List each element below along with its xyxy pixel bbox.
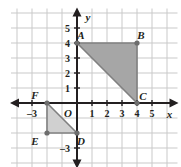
x-axis-tick-label: 2 (105, 108, 110, 119)
coordinate-plane-svg: –31234554321–3OxyABCFED (0, 0, 181, 167)
coordinate-plane-figure: –31234554321–3OxyABCFED (0, 0, 181, 167)
vertex-label-a: A (76, 29, 84, 41)
x-axis-tick-label: 1 (90, 108, 95, 119)
vertex-point-b (134, 40, 139, 45)
x-axis-tick-label: 4 (135, 108, 140, 119)
vertex-point-f (44, 100, 49, 105)
vertex-label-d: D (76, 135, 85, 147)
x-axis-tick-label: –3 (26, 108, 37, 119)
x-axis-arrow-left (10, 99, 19, 108)
y-axis-arrow-up (73, 8, 82, 17)
origin-label: O (64, 107, 72, 119)
y-axis-tick-label: 2 (65, 68, 70, 79)
x-axis-arrow-right (170, 99, 179, 108)
x-axis-name: x (166, 108, 173, 120)
vertex-label-e: E (30, 135, 38, 147)
vertex-point-e (44, 130, 49, 135)
vertex-label-f: F (30, 89, 39, 101)
y-axis-tick-label: –3 (59, 143, 70, 154)
x-axis-tick-label: 5 (150, 108, 155, 119)
vertex-point-a (74, 40, 79, 45)
y-axis-tick-label: 1 (65, 83, 70, 94)
y-axis-tick-label: 4 (65, 38, 70, 49)
vertex-label-b: B (136, 29, 144, 41)
y-axis-tick-label: 5 (65, 23, 70, 34)
y-axis-name: y (84, 11, 91, 23)
vertex-label-c: C (139, 90, 147, 102)
x-axis-tick-label: 3 (120, 108, 125, 119)
y-axis-tick-label: 3 (65, 53, 70, 64)
